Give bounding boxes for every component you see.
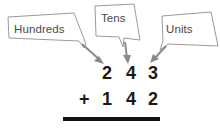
addend1-units-digit: 3	[148, 64, 158, 82]
sum-rule	[63, 117, 160, 121]
callout-label-units: Units	[166, 24, 193, 36]
addend2-tens-digit: 4	[126, 90, 136, 108]
addend2-units-digit: 2	[148, 90, 158, 108]
addend1-tens-digit: 4	[126, 64, 136, 82]
plus-operator: +	[79, 90, 90, 108]
callout-label-tens: Tens	[101, 13, 126, 25]
units-arrow	[150, 46, 166, 63]
callout-label-hundreds: Hundreds	[14, 24, 65, 36]
addend1-hundreds-digit: 2	[102, 64, 112, 82]
worksheet-figure: Hundreds Tens Units 2 4 3 + 1 4 2	[0, 0, 220, 129]
addend2-hundreds-digit: 1	[102, 90, 112, 108]
hundreds-arrow	[82, 44, 104, 64]
tens-arrow	[123, 42, 131, 64]
tens-callout-shape	[95, 4, 140, 47]
